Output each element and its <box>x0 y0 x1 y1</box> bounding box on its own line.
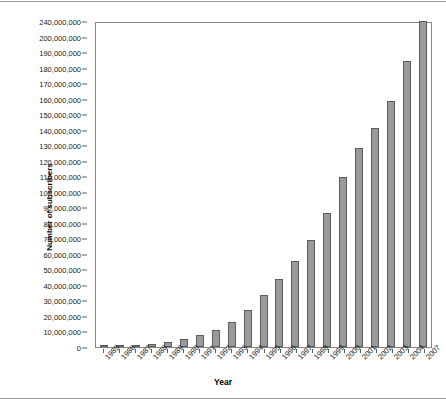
y-tick-mark <box>82 99 87 100</box>
bar <box>403 61 411 347</box>
y-tick-label: 50,000,000 <box>43 266 81 275</box>
y-tick-label: 60,000,000 <box>43 250 81 259</box>
y-tick-mark <box>82 316 87 317</box>
bar-slot <box>112 23 128 347</box>
bar <box>291 261 299 347</box>
y-tick-mark <box>82 37 87 38</box>
x-tick-mark <box>328 349 329 353</box>
y-tick-mark <box>82 68 87 69</box>
y-tick-label: 120,000,000 <box>39 157 81 166</box>
y-tick-label: 200,000,000 <box>39 33 81 42</box>
y-tick-label: 160,000,000 <box>39 95 81 104</box>
x-tick-mark <box>264 349 265 353</box>
y-tick-label: 0 <box>77 344 81 353</box>
y-tick-label: 110,000,000 <box>40 173 81 182</box>
bar <box>100 345 108 347</box>
y-tick-label: 30,000,000 <box>43 297 81 306</box>
y-tick-mark <box>82 270 87 271</box>
bar-slot <box>415 23 431 347</box>
bar-series <box>96 23 431 347</box>
y-tick-label: 150,000,000 <box>39 111 81 120</box>
y-tick-mark <box>82 348 87 349</box>
bottom-divider <box>0 398 446 399</box>
y-tick-mark <box>82 177 87 178</box>
y-tick-mark <box>82 115 87 116</box>
x-tick-mark <box>344 349 345 353</box>
y-tick-mark <box>82 301 87 302</box>
x-tick-mark <box>280 349 281 353</box>
bar-slot <box>224 23 240 347</box>
y-tick-label: 190,000,000 <box>39 49 81 58</box>
bar <box>355 148 363 347</box>
y-tick-mark <box>82 254 87 255</box>
y-tick-mark <box>82 239 87 240</box>
bar <box>323 213 331 347</box>
y-tick-mark <box>82 161 87 162</box>
bar-slot <box>256 23 272 347</box>
bar-slot <box>128 23 144 347</box>
plot-area <box>95 22 432 348</box>
y-tick-label: 100,000,000 <box>39 188 81 197</box>
x-tick-mark <box>296 349 297 353</box>
bar <box>387 101 395 347</box>
bar-slot <box>192 23 208 347</box>
bar <box>228 322 236 347</box>
y-tick-label: 90,000,000 <box>43 204 81 213</box>
bar-slot <box>271 23 287 347</box>
y-tick-mark <box>82 285 87 286</box>
bar-slot <box>335 23 351 347</box>
y-tick-mark <box>82 192 87 193</box>
y-tick-label: 40,000,000 <box>43 281 81 290</box>
x-axis: 1985198619871988198919901991199219931994… <box>95 349 432 399</box>
y-tick-mark <box>82 53 87 54</box>
bar-slot <box>303 23 319 347</box>
bar-slot <box>160 23 176 347</box>
y-tick-mark <box>82 208 87 209</box>
bar-slot <box>367 23 383 347</box>
bar <box>260 295 268 347</box>
y-tick-mark <box>82 22 87 23</box>
bar <box>419 21 427 347</box>
bar-slot <box>208 23 224 347</box>
y-tick-label: 20,000,000 <box>43 312 81 321</box>
y-tick-label: 170,000,000 <box>39 80 81 89</box>
y-axis: 010,000,00020,000,00030,000,00040,000,00… <box>0 0 95 413</box>
bar <box>307 240 315 347</box>
y-tick-mark <box>82 130 87 131</box>
x-axis-title: Year <box>0 377 446 387</box>
bar <box>275 279 283 347</box>
bar-slot <box>399 23 415 347</box>
bar-slot <box>351 23 367 347</box>
y-tick-label: 140,000,000 <box>39 126 81 135</box>
bar-slot <box>383 23 399 347</box>
x-tick-mark <box>312 349 313 353</box>
y-tick-label: 80,000,000 <box>43 219 81 228</box>
bar-slot <box>144 23 160 347</box>
bar-slot <box>96 23 112 347</box>
y-tick-mark <box>82 84 87 85</box>
bar-slot <box>287 23 303 347</box>
chart-page: Number of subscribers 010,000,00020,000,… <box>0 0 446 413</box>
bar <box>339 177 347 347</box>
y-tick-mark <box>82 146 87 147</box>
y-tick-label: 70,000,000 <box>43 235 81 244</box>
bar <box>244 310 252 347</box>
y-tick-mark <box>82 223 87 224</box>
y-tick-label: 130,000,000 <box>39 142 81 151</box>
bar-slot <box>176 23 192 347</box>
y-tick-mark <box>82 332 87 333</box>
bar <box>371 128 379 347</box>
y-tick-label: 180,000,000 <box>39 64 81 73</box>
y-tick-label: 10,000,000 <box>43 328 81 337</box>
bar-slot <box>240 23 256 347</box>
bar-slot <box>319 23 335 347</box>
y-tick-label: 240,000,000 <box>39 18 81 27</box>
